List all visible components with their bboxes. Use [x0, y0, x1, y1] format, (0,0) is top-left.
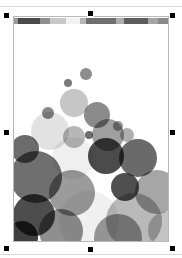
toolbar-strip-segment-3	[50, 18, 66, 24]
handle-bottom-right[interactable]	[170, 246, 175, 251]
handle-top-left[interactable]	[4, 13, 9, 18]
selected-image-object[interactable]	[13, 16, 169, 242]
handle-bottom-center[interactable]	[88, 247, 93, 252]
handle-middle-left[interactable]	[4, 130, 9, 135]
blurred-toolbar-strip	[14, 18, 169, 24]
bubble-1	[64, 79, 72, 87]
toolbar-strip-segment-1	[18, 18, 40, 24]
bubble-8	[85, 131, 93, 139]
handle-top-center[interactable]	[88, 11, 93, 16]
toolbar-strip-segment-4	[66, 18, 80, 24]
toolbar-strip-segment-9	[148, 18, 158, 24]
sheet-edge-bottom	[0, 254, 182, 255]
toolbar-strip-segment-7	[116, 18, 124, 24]
bubble-0	[80, 68, 92, 80]
toolbar-strip-segment-6	[86, 18, 116, 24]
toolbar-strip-segment-8	[124, 18, 148, 24]
toolbar-strip-segment-10	[158, 18, 169, 24]
handle-bottom-left[interactable]	[4, 246, 9, 251]
bubble-chart-plot	[14, 25, 169, 242]
toolbar-strip-segment-2	[40, 18, 50, 24]
handle-middle-right[interactable]	[170, 130, 175, 135]
editor-canvas	[0, 0, 182, 258]
sheet-edge-top	[0, 6, 182, 7]
handle-top-right[interactable]	[170, 13, 175, 18]
